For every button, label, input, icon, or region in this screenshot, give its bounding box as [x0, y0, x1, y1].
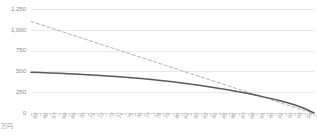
x-axis-tick-label: 91	[277, 112, 284, 119]
y-axis-tick-label: 500	[0, 68, 26, 74]
series-layer	[31, 9, 314, 113]
x-axis-tick-label: 70	[79, 112, 86, 119]
x-axis-tick-label: 82	[193, 112, 200, 119]
x-axis-tick-label: 83	[202, 112, 209, 119]
x-axis-tick-label: 88	[249, 112, 256, 119]
x-axis-tick-label: 80	[174, 112, 181, 119]
x-axis-tick-label: 76	[136, 112, 143, 119]
x-axis-tick-label: 66	[42, 112, 49, 119]
x-axis-tick-label: 78	[155, 112, 162, 119]
x-axis-tick-label: 72	[98, 112, 105, 119]
x-axis-tick-label: 84	[211, 112, 218, 119]
x-axis-tick-label: 89	[259, 112, 266, 119]
x-axis-tick-label: 71	[89, 112, 96, 119]
x-axis-tick-label: 69	[70, 112, 77, 119]
x-axis-tick-label: 68	[61, 112, 68, 119]
x-axis-tick-label: 85	[221, 112, 228, 119]
y-axis-tick-label: 0	[0, 110, 26, 116]
x-axis-tick-label: 65	[32, 112, 39, 119]
axis-unit-label: 万円	[1, 121, 13, 130]
x-axis-tick-label: 77	[145, 112, 152, 119]
x-axis-tick-label: 67	[51, 112, 58, 119]
x-axis-tick-label: 75	[127, 112, 134, 119]
x-axis-tick-label: 92	[287, 112, 294, 119]
x-axis-tick-label: 87	[240, 112, 247, 119]
x-axis-tick-label: 95	[315, 112, 317, 119]
line-chart: 万円 1,2501,0007505002500 6566676869707172…	[0, 0, 317, 137]
x-axis-tick-label: 94	[306, 112, 313, 119]
x-axis-tick-label: 74	[117, 112, 124, 119]
x-axis-tick-label: 86	[230, 112, 237, 119]
x-axis-tick-label: 73	[108, 112, 115, 119]
y-axis-tick-label: 1,250	[0, 6, 26, 12]
x-axis-tick-label: 90	[268, 112, 275, 119]
y-axis-tick-label: 750	[0, 47, 26, 53]
x-axis: 6566676869707172737475767778798081828384…	[31, 113, 314, 137]
x-axis-tick-label: 79	[164, 112, 171, 119]
x-axis-tick-label: 81	[183, 112, 190, 119]
y-axis-tick-label: 1,000	[0, 27, 26, 33]
x-axis-tick-label: 93	[296, 112, 303, 119]
plot-area: 1,2501,0007505002500	[31, 9, 314, 113]
series-line-series-solid	[31, 72, 314, 113]
y-axis-tick-label: 250	[0, 89, 26, 95]
